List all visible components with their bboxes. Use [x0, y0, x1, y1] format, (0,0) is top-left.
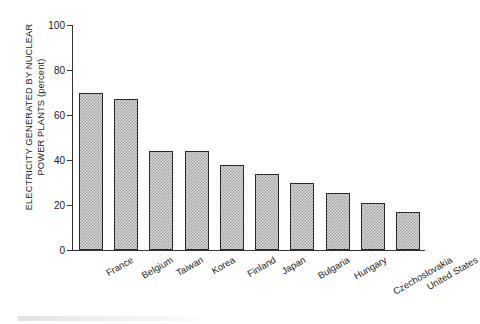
- y-tick-label: 20: [54, 200, 65, 211]
- y-tick-label: 100: [48, 20, 65, 31]
- y-axis-title-line-1: ELECTRICITY GENERATED BY NUCLEAR: [23, 24, 36, 211]
- bar: [114, 99, 138, 250]
- bar: [290, 183, 314, 251]
- x-axis-label-japan: Japan: [280, 254, 308, 276]
- y-tick-mark: [67, 25, 72, 26]
- x-axis-label-finland: Finland: [245, 254, 277, 279]
- x-axis-line: [72, 250, 425, 251]
- plot-area: 020406080100: [72, 25, 425, 250]
- y-tick-mark: [67, 160, 72, 161]
- x-axis-label-belgium: Belgium: [140, 254, 175, 281]
- y-axis-title: ELECTRICITY GENERATED BY NUCLEAR POWER P…: [18, 0, 52, 237]
- bar: [149, 151, 173, 250]
- y-tick-label: 80: [54, 65, 65, 76]
- x-axis-label-bulgaria: Bulgaria: [316, 254, 352, 281]
- x-axis-label-france: France: [104, 254, 135, 278]
- y-tick-mark: [67, 70, 72, 71]
- bar: [255, 174, 279, 251]
- y-tick-mark: [67, 115, 72, 116]
- y-tick-label: 0: [59, 245, 65, 256]
- y-tick-label: 60: [54, 110, 65, 121]
- bar: [185, 151, 209, 250]
- y-tick-mark: [67, 205, 72, 206]
- x-axis-label-korea: Korea: [209, 254, 236, 276]
- bar: [361, 203, 385, 250]
- y-tick-label: 40: [54, 155, 65, 166]
- y-tick-mark: [67, 250, 72, 251]
- y-axis-title-line-2: POWER PLANTS (percent): [35, 59, 48, 176]
- x-axis-label-taiwan: Taiwan: [174, 254, 205, 278]
- bar: [79, 93, 103, 251]
- page-caption-fragment: [18, 316, 198, 321]
- bar: [220, 165, 244, 251]
- bar: [396, 212, 420, 250]
- x-axis-label-hungary: Hungary: [352, 254, 389, 281]
- bar: [326, 193, 350, 250]
